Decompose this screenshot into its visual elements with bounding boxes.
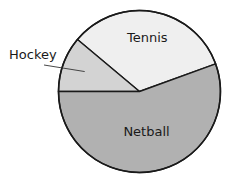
- slice-label-netball: Netball: [123, 124, 169, 139]
- slice-label-hockey: Hockey: [9, 47, 57, 62]
- slice-label-tennis: Tennis: [126, 30, 168, 45]
- pie-chart: Tennis Hockey Netball: [0, 0, 226, 188]
